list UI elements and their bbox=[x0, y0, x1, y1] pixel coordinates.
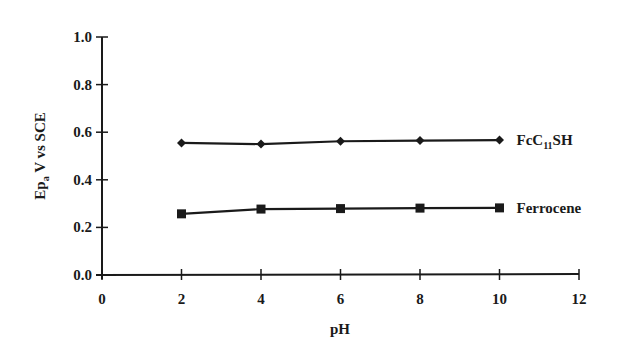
diamond-marker bbox=[495, 136, 504, 145]
x-axis-line bbox=[96, 274, 579, 275]
diamond-marker bbox=[336, 137, 345, 146]
series-label-main: Ferrocene bbox=[517, 200, 582, 216]
line-chart: 0.00.20.40.60.81.0 024681012 FcC11SHFerr… bbox=[0, 0, 635, 364]
y-tick-label: 0.6 bbox=[73, 124, 92, 140]
x-tick-label: 4 bbox=[257, 291, 265, 307]
x-tick-label: 0 bbox=[98, 291, 106, 307]
x-tick-label: 2 bbox=[178, 291, 186, 307]
x-tick-label: 6 bbox=[337, 291, 345, 307]
square-marker bbox=[416, 204, 425, 213]
y-axis-title-rest: V vs SCE bbox=[32, 112, 48, 176]
series-ferrocene: Ferrocene bbox=[177, 200, 582, 218]
x-tick-label: 12 bbox=[572, 291, 587, 307]
y-tick-label: 0.2 bbox=[73, 219, 92, 235]
series-label: FcC11SH bbox=[517, 132, 573, 151]
y-tick-label: 0.0 bbox=[73, 267, 92, 283]
series-label: Ferrocene bbox=[517, 200, 582, 216]
diamond-marker bbox=[177, 138, 186, 147]
y-axis-title-main: Ep bbox=[32, 181, 48, 199]
series-label-sub: 11 bbox=[543, 140, 552, 151]
square-marker bbox=[257, 205, 266, 214]
y-tick-label: 1.0 bbox=[73, 29, 92, 45]
x-axis-title: pH bbox=[330, 321, 350, 337]
y-axis: 0.00.20.40.60.81.0 bbox=[73, 29, 108, 283]
y-axis-title: Epa V vs SCE bbox=[32, 112, 51, 199]
series-fcc11sh: FcC11SH bbox=[177, 132, 573, 151]
x-axis: 024681012 bbox=[96, 269, 587, 307]
x-tick-label: 10 bbox=[492, 291, 507, 307]
diamond-marker bbox=[416, 136, 425, 145]
series-label-main: FcC bbox=[517, 132, 544, 148]
square-marker bbox=[177, 209, 186, 218]
diamond-marker bbox=[257, 140, 266, 149]
series-label-rest: SH bbox=[553, 132, 573, 148]
square-marker bbox=[336, 204, 345, 213]
y-tick-label: 0.8 bbox=[73, 77, 92, 93]
y-tick-label: 0.4 bbox=[73, 172, 92, 188]
series-layer: FcC11SHFerrocene bbox=[177, 132, 582, 218]
square-marker bbox=[495, 203, 504, 212]
x-tick-label: 8 bbox=[416, 291, 424, 307]
